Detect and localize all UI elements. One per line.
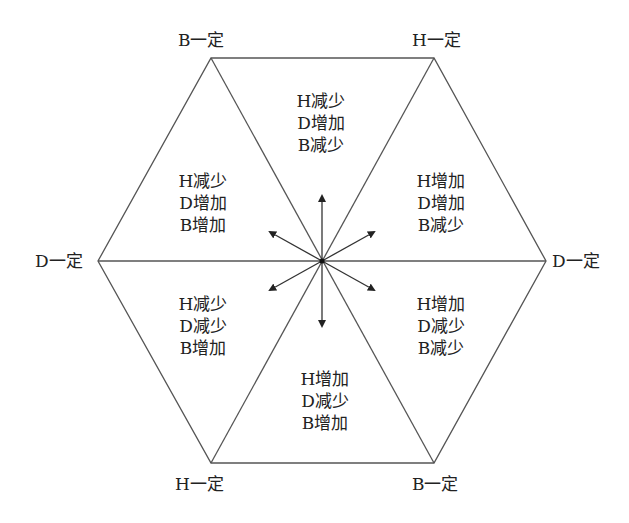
region-bottom: H增加 D减少 B增加 xyxy=(280,368,370,434)
region-upper-left-line-d: D增加 xyxy=(158,192,248,214)
region-bottom-line-h: H增加 xyxy=(280,368,370,390)
vertex-label-top-right: H一定 xyxy=(412,30,461,50)
vertex-label-right: D一定 xyxy=(552,251,600,271)
region-upper-right-line-h: H增加 xyxy=(396,170,486,192)
region-upper-right-line-b: B减少 xyxy=(396,214,486,236)
region-lower-right-line-h: H增加 xyxy=(396,293,486,315)
region-top: H减少 D增加 B减少 xyxy=(276,90,366,156)
region-lower-right-line-b: B减少 xyxy=(396,337,486,359)
region-upper-left-line-b: B增加 xyxy=(158,214,248,236)
region-top-line-d: D增加 xyxy=(276,112,366,134)
region-lower-right-line-d: D减少 xyxy=(396,315,486,337)
center-point xyxy=(320,259,325,264)
region-upper-right-line-d: D增加 xyxy=(396,192,486,214)
region-lower-left-line-d: D减少 xyxy=(158,315,248,337)
region-bottom-line-d: D减少 xyxy=(280,390,370,412)
vertex-label-left: D一定 xyxy=(35,251,83,271)
vertex-label-top-left: B一定 xyxy=(178,30,225,50)
region-upper-left: H减少 D增加 B增加 xyxy=(158,170,248,236)
region-lower-left: H减少 D减少 B增加 xyxy=(158,293,248,359)
region-top-line-h: H减少 xyxy=(276,90,366,112)
vertex-label-bottom-left: H一定 xyxy=(175,474,224,494)
hexagon-diagram xyxy=(0,0,629,523)
region-upper-left-line-h: H减少 xyxy=(158,170,248,192)
region-lower-left-line-b: B增加 xyxy=(158,337,248,359)
region-lower-right: H增加 D减少 B减少 xyxy=(396,293,486,359)
region-top-line-b: B减少 xyxy=(276,134,366,156)
arrow-lower-right-icon xyxy=(322,261,374,290)
vertex-label-bottom-right: B一定 xyxy=(412,474,459,494)
region-upper-right: H增加 D增加 B减少 xyxy=(396,170,486,236)
region-bottom-line-b: B增加 xyxy=(280,412,370,434)
region-lower-left-line-h: H减少 xyxy=(158,293,248,315)
